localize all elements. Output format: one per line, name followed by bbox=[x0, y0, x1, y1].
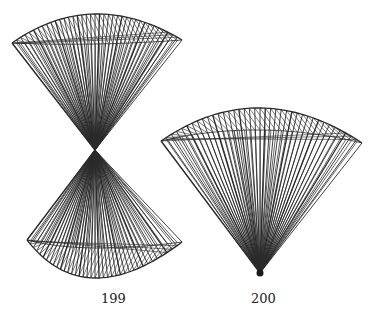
figure-label-199: 199 bbox=[101, 291, 126, 306]
figure-label-200: 200 bbox=[251, 291, 276, 306]
figure-canvas bbox=[0, 0, 376, 318]
apex-point bbox=[257, 270, 264, 277]
figure-199-hourglass bbox=[12, 14, 182, 278]
figure-200-fan bbox=[161, 108, 362, 273]
